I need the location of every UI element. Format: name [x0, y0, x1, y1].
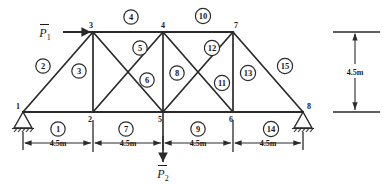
member-label-12: 12: [204, 40, 219, 55]
node-label-1: 1: [16, 102, 20, 111]
load-P2-label: P2: [156, 167, 168, 183]
member-label-5: 5: [133, 41, 147, 55]
member-label-text: 11: [218, 78, 226, 88]
member-label-text: 13: [244, 68, 253, 78]
member-label-text: 10: [199, 11, 208, 21]
load-P1-subscript: 1: [47, 33, 51, 42]
member-label-9: 9: [191, 122, 205, 136]
member-label-13: 13: [240, 65, 255, 80]
member-label-4: 4: [124, 10, 138, 24]
member-label-14: 14: [263, 121, 278, 136]
dimension-span-4-label: 4.5m: [260, 139, 277, 148]
member-label-3: 3: [72, 64, 86, 78]
node-label-4: 4: [161, 21, 165, 30]
vertical-dimension: 4.5m: [333, 32, 380, 112]
truss-svg-canvas: 1 2 3 4 5 6 7: [0, 0, 389, 185]
dimension-span-3-label: 4.5m: [190, 139, 207, 148]
truss-members: [23, 32, 303, 112]
load-P2-subscript: 2: [165, 174, 169, 183]
support-node-1: [12, 112, 34, 132]
member-label-text: 15: [281, 61, 290, 71]
member-label-2: 2: [36, 59, 50, 73]
node-label-8: 8: [307, 102, 311, 111]
member-label-15: 15: [277, 58, 292, 73]
member-label-text: 9: [196, 124, 200, 134]
dimension-span-1: 4.5m: [25, 139, 91, 148]
dimension-span-4: 4.5m: [235, 139, 301, 148]
dimension-span-1-label: 4.5m: [50, 139, 67, 148]
member-label-text: 3: [77, 66, 81, 76]
member-label-6: 6: [140, 73, 154, 87]
dimension-span-2-label: 4.5m: [120, 139, 137, 148]
truss-diagram: 1 2 3 4 5 6 7: [0, 0, 389, 185]
support-node-8: [292, 112, 314, 132]
load-P1: P1: [38, 25, 91, 43]
dimension-span-3: 4.5m: [165, 139, 231, 148]
member-label-text: 5: [138, 43, 142, 53]
member-label-text: 1: [56, 124, 60, 134]
member-label-1: 1: [51, 122, 65, 136]
member-label-text: 6: [145, 75, 149, 85]
member-label-8: 8: [170, 66, 184, 80]
member-label-text: 8: [175, 68, 179, 78]
member-label-text: 12: [208, 43, 217, 53]
load-P1-label: P1: [38, 26, 50, 42]
node-label-2: 2: [88, 115, 92, 124]
dimension-span-2: 4.5m: [95, 139, 161, 148]
member-label-10: 10: [195, 8, 210, 23]
member-label-7: 7: [119, 122, 133, 136]
node-label-5: 5: [158, 115, 162, 124]
node-label-7: 7: [234, 21, 238, 30]
member-label-text: 2: [41, 61, 45, 71]
node-label-3: 3: [89, 21, 93, 30]
vertical-dimension-label: 4.5m: [347, 68, 364, 77]
member-label-11: 11: [214, 75, 229, 90]
member-label-text: 14: [267, 124, 276, 134]
